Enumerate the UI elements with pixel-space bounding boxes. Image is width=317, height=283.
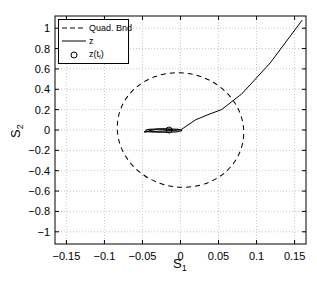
- y-tick-label: −0.6: [28, 185, 50, 197]
- y-axis-label: S2: [8, 124, 25, 138]
- y-tick-label: −0.2: [28, 144, 50, 156]
- y-tick-label: 0.8: [35, 43, 50, 55]
- y-tick-label: 0.2: [35, 104, 50, 116]
- legend-label-z-tf: z(tf): [89, 49, 104, 60]
- z-trajectory-line: [144, 20, 302, 132]
- x-tick-label: −0.1: [94, 250, 116, 262]
- x-tick-label: 0.15: [284, 250, 305, 262]
- y-tick-label: −0.8: [28, 205, 50, 217]
- y-tick-label: 0: [44, 124, 50, 136]
- y-tick-label: −1: [37, 226, 50, 238]
- x-tick-label: −0.15: [52, 250, 80, 262]
- x-tick-label: 0.1: [249, 250, 264, 262]
- legend: Quad. Bnd z z(tf): [59, 20, 133, 64]
- legend-label-quad-bnd: Quad. Bnd: [89, 23, 132, 33]
- y-tick-label: 0.4: [35, 83, 50, 95]
- x-tick-label: 0.05: [208, 250, 229, 262]
- chart: −0.15−0.1−0.0500.050.10.1510.80.60.40.20…: [0, 0, 317, 283]
- y-tick-label: 0.6: [35, 63, 50, 75]
- x-axis-label: S1: [173, 256, 187, 273]
- plot-series: [107, 20, 303, 199]
- legend-label-z: z: [89, 36, 94, 46]
- x-tick-label: −0.05: [129, 250, 157, 262]
- y-tick-label: 1: [44, 22, 50, 34]
- y-tick-label: −0.4: [28, 165, 50, 177]
